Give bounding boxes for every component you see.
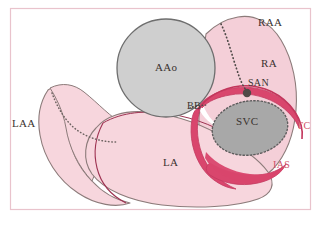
label-svc: SVC [236,116,258,127]
anatomy-diagram [0,0,322,227]
label-bb: BB [187,101,201,111]
label-san: SAN [248,78,269,88]
label-aao: AAo [155,62,177,73]
label-laa: LAA [12,118,36,129]
label-raa: RAA [258,17,282,28]
label-la: LA [163,157,178,168]
label-ias: IAS [273,160,290,170]
figure-root: LAA AAo BB RAA RA SAN SVC TC IAS LA [0,0,322,227]
sinoatrial-node-marker [243,89,251,97]
label-tc: TC [297,121,310,131]
label-ra: RA [261,58,277,69]
